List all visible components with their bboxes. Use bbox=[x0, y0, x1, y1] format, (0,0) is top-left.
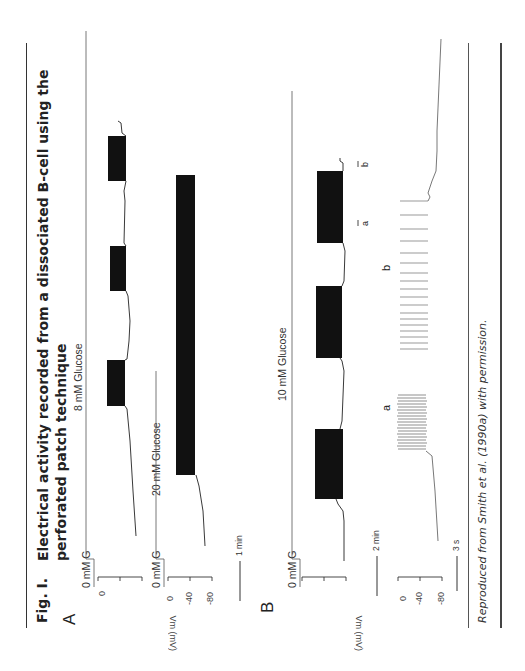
panel-b-trace2-plot bbox=[0, 0, 525, 671]
panel-b-ylabel: Vm (mV) bbox=[354, 616, 364, 652]
panel-b-scale-3s: 3 s bbox=[451, 540, 461, 551]
panel-b-inset-a: a bbox=[380, 405, 392, 411]
panel-b-tick-0: 0 bbox=[398, 596, 408, 601]
panel-b-inset-b: b bbox=[380, 265, 392, 271]
bottom-rule bbox=[500, 43, 502, 628]
caption-top-rule bbox=[468, 43, 469, 628]
figure-caption: Reproduced from Smith et al. (1990a) wit… bbox=[476, 319, 489, 623]
panel-b-tick-40: -40 bbox=[414, 592, 424, 605]
figure-page: Fig. I. Electrical activity recorded fro… bbox=[0, 0, 525, 671]
panel-b-tick-80: -80 bbox=[436, 592, 446, 605]
